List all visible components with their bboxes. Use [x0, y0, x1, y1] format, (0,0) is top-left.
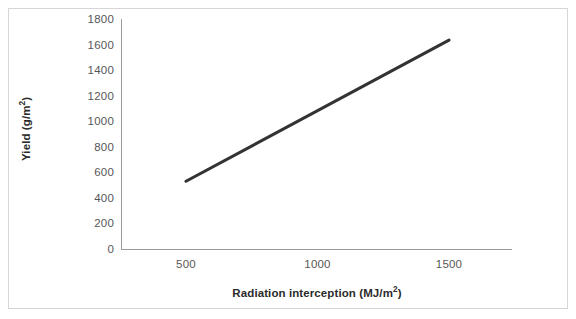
chart-figure: 020040060080010001200140016001800 500100…	[0, 0, 576, 319]
y-axis-title: Yield (g/m2)	[18, 49, 32, 209]
data-series-layer	[0, 0, 576, 319]
line-series-yield	[186, 40, 449, 181]
x-axis-title: Radiation interception (MJ/m2)	[122, 285, 512, 299]
